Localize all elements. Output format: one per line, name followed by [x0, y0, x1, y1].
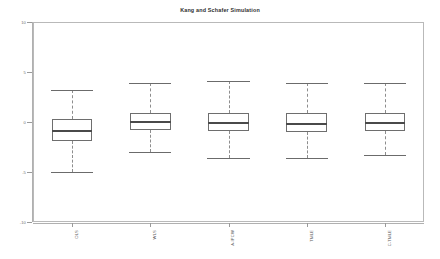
x-axis-label-tmle: TMLE [309, 230, 314, 242]
x-axis-label-wls: WLS [152, 230, 157, 239]
x-axis-label-ols: OLS [74, 230, 79, 239]
x-axis-tick [307, 223, 308, 227]
y-axis-tick [27, 222, 32, 223]
plot-area [33, 22, 424, 222]
y-axis-label: -5 [22, 170, 26, 175]
whisker-upper [385, 83, 386, 113]
x-axis-tick [72, 223, 73, 227]
x-axis-tick [385, 223, 386, 227]
y-axis-tick [27, 122, 32, 123]
boxplot-c-tmle [33, 22, 424, 222]
x-axis-tick [150, 223, 151, 227]
y-axis-tick [27, 72, 32, 73]
y-axis-label: -10 [20, 220, 26, 225]
x-axis-tick [229, 223, 230, 227]
x-axis-label-c-tmle: C-TMLE [387, 230, 392, 246]
median-line [365, 122, 406, 124]
y-axis-tick [27, 22, 32, 23]
y-axis-label: 5 [24, 70, 26, 75]
boxplot-figure: Kang and Schafer Simulation 1050-5-10 OL… [0, 0, 440, 259]
y-axis-label: 10 [21, 20, 26, 25]
cap-lower [364, 155, 406, 156]
y-axis-label: 0 [24, 120, 26, 125]
x-axis-label-a-ipcw: A-IPCW [230, 230, 235, 246]
whisker-lower [385, 131, 386, 156]
cap-upper [364, 83, 406, 84]
y-axis-tick [27, 172, 32, 173]
page-title: Kang and Schafer Simulation [0, 7, 440, 13]
